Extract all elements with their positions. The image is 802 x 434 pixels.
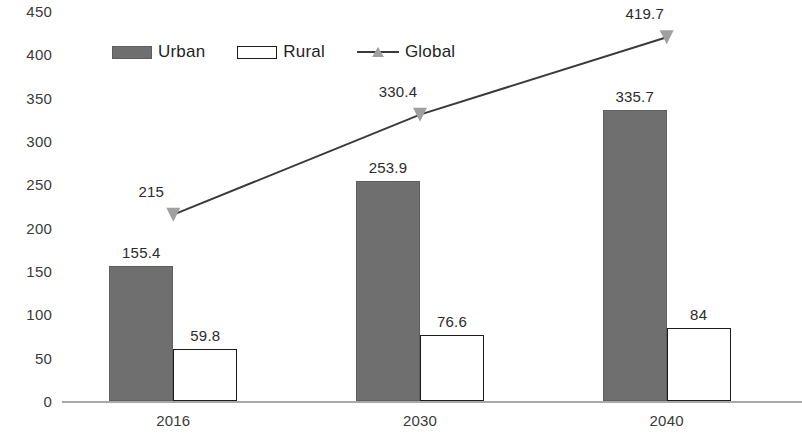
bar-label-rural: 59.8 [190, 327, 220, 344]
line-label-global: 215 [139, 183, 165, 200]
bar-label-urban: 253.9 [369, 159, 408, 176]
bar-label-urban: 155.4 [122, 244, 161, 261]
bar-rural [420, 335, 484, 401]
bar-label-urban: 335.7 [615, 88, 654, 105]
x-axis-line [62, 401, 802, 403]
global-triangle-marker [660, 30, 674, 44]
legend-item-global: Global [357, 42, 455, 62]
global-triangle-marker-icon [372, 47, 384, 57]
y-axis-tick-label: 250 [6, 176, 52, 193]
y-axis-tick-label: 200 [6, 219, 52, 236]
legend-label-rural: Rural [283, 42, 325, 62]
y-axis-tick-label: 150 [6, 263, 52, 280]
grouped-bar-line-chart: 050100150200250300350400450 155.459.8253… [0, 0, 802, 434]
y-axis-tick-label: 450 [6, 3, 52, 20]
y-axis-tick-label: 0 [6, 393, 52, 410]
y-axis-tick-label: 350 [6, 89, 52, 106]
legend-label-global: Global [405, 42, 455, 62]
x-axis-tick-label: 2016 [156, 412, 190, 429]
x-axis: 201620302040 [62, 404, 802, 434]
global-line-path [173, 37, 666, 214]
urban-swatch-icon [112, 46, 152, 59]
legend-label-urban: Urban [158, 42, 205, 62]
y-axis: 050100150200250300350400450 [0, 0, 52, 434]
bar-label-rural: 76.6 [437, 313, 467, 330]
legend-item-rural: Rural [237, 42, 325, 62]
global-swatch-icon [357, 45, 399, 59]
y-axis-tick-label: 400 [6, 46, 52, 63]
y-axis-tick-label: 300 [6, 133, 52, 150]
bar-urban [109, 266, 173, 401]
x-axis-tick-label: 2040 [650, 412, 684, 429]
global-triangle-marker [413, 108, 427, 122]
y-axis-tick-label: 100 [6, 306, 52, 323]
bar-urban [603, 110, 667, 401]
global-triangle-marker [166, 208, 180, 222]
bar-label-rural: 84 [690, 306, 707, 323]
legend-item-urban: Urban [112, 42, 205, 62]
bar-rural [667, 328, 731, 401]
x-axis-tick-label: 2030 [403, 412, 437, 429]
bar-rural [173, 349, 237, 401]
rural-swatch-icon [237, 46, 277, 59]
y-axis-tick-label: 50 [6, 349, 52, 366]
line-label-global: 419.7 [625, 5, 664, 22]
bar-urban [356, 181, 420, 401]
chart-legend: Urban Rural Global [112, 42, 455, 62]
line-label-global: 330.4 [379, 83, 418, 100]
